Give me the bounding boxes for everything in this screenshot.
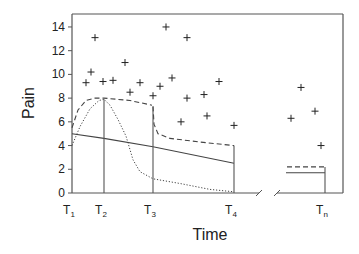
plus-marker-icon bbox=[201, 91, 208, 98]
series-layer bbox=[72, 98, 325, 192]
plus-marker-icon bbox=[288, 115, 295, 122]
plot-frame bbox=[72, 14, 343, 196]
plus-marker-icon bbox=[216, 78, 223, 85]
chart: 02468101214 T1T2T3T4Tn Pain Time bbox=[0, 0, 359, 254]
plus-marker-icon bbox=[184, 95, 191, 102]
plus-marker-icon bbox=[204, 112, 211, 119]
time-label-n: Tn bbox=[316, 203, 328, 219]
y-tick-label: 8 bbox=[58, 91, 65, 105]
pain-over-time-chart: 02468101214 T1T2T3T4Tn Pain Time bbox=[0, 0, 359, 254]
plus-marker-icon bbox=[157, 83, 164, 90]
plus-marker-icon bbox=[83, 79, 90, 86]
plus-marker-icon bbox=[88, 69, 95, 76]
y-tick-label: 0 bbox=[58, 186, 65, 200]
plus-marker-icon bbox=[122, 59, 129, 66]
plus-marker-icon bbox=[100, 78, 107, 85]
plus-marker-icon bbox=[150, 92, 157, 99]
y-tick-label: 4 bbox=[58, 139, 65, 153]
plus-marker-icon bbox=[178, 118, 185, 125]
plus-marker-icon bbox=[163, 23, 170, 30]
y-tick-label: 14 bbox=[52, 20, 66, 34]
time-label-2: T2 bbox=[95, 203, 107, 219]
plus-marker-icon bbox=[92, 34, 99, 41]
y-tick-label: 12 bbox=[52, 44, 66, 58]
plus-marker-icon bbox=[110, 77, 117, 84]
x-axis-time-labels: T1T2T3T4Tn bbox=[63, 203, 328, 219]
plus-marker-icon bbox=[127, 89, 134, 96]
time-label-1: T1 bbox=[63, 203, 75, 219]
y-tick-label: 6 bbox=[58, 115, 65, 129]
vertical-markers bbox=[104, 99, 325, 193]
dashed-curve-segment bbox=[72, 98, 152, 128]
dashed-curve-segment bbox=[153, 106, 234, 145]
time-label-4: T4 bbox=[225, 203, 237, 219]
plus-marker-icon bbox=[312, 108, 319, 115]
plus-marker-icon bbox=[184, 34, 191, 41]
plus-marker-icon bbox=[137, 79, 144, 86]
y-axis-title: Pain bbox=[20, 87, 37, 119]
y-axis-ticks: 02468101214 bbox=[52, 20, 72, 200]
y-tick-label: 2 bbox=[58, 162, 65, 176]
plus-marker-icon bbox=[318, 142, 325, 149]
x-axis-title: Time bbox=[193, 226, 228, 243]
y-tick-label: 10 bbox=[52, 67, 66, 81]
plus-marker-icon bbox=[169, 74, 176, 81]
time-label-3: T3 bbox=[144, 203, 156, 219]
plus-marker-icon bbox=[231, 122, 238, 129]
plus-marker-icon bbox=[298, 84, 305, 91]
scatter-points bbox=[83, 23, 325, 149]
